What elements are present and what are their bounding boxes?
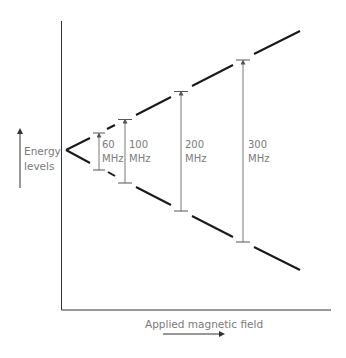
transition-200-unit: MHz	[185, 153, 206, 164]
y-axis-label-levels: levels	[24, 160, 54, 172]
transition-300-unit: MHz	[248, 153, 269, 164]
transition-100mhz: 100 MHz	[118, 120, 150, 184]
upper-energy-level	[66, 31, 300, 150]
transition-200mhz: 200 MHz	[174, 92, 206, 212]
lower-energy-level	[66, 150, 300, 270]
transition-60-unit: MHz	[102, 153, 123, 164]
transition-60mhz: 60 MHz	[93, 133, 123, 170]
x-axis-label: Applied magnetic field	[145, 318, 263, 330]
transition-60-freq: 60	[102, 139, 115, 150]
transition-300mhz: 300 MHz	[236, 60, 269, 242]
transition-100-freq: 100	[129, 139, 148, 150]
transition-100-unit: MHz	[129, 153, 150, 164]
y-axis-label-energy: Energy	[24, 145, 61, 157]
energy-level-diagram: Energy levels Applied magnetic field 60 …	[0, 0, 346, 358]
transition-300-freq: 300	[248, 139, 267, 150]
transition-200-freq: 200	[185, 139, 204, 150]
